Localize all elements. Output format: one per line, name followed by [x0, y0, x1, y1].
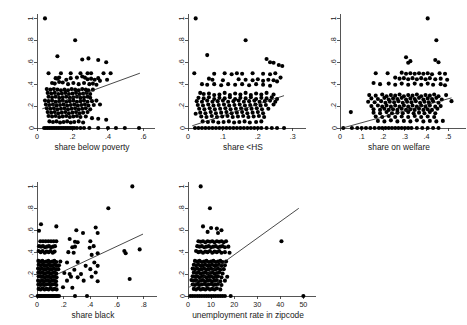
- data-point: [94, 99, 98, 103]
- data-point: [91, 82, 95, 86]
- data-point: [226, 82, 230, 86]
- data-point: [46, 110, 50, 114]
- data-point: [265, 57, 269, 61]
- data-point: [426, 82, 430, 86]
- data-point: [74, 110, 78, 114]
- data-point: [207, 77, 211, 81]
- data-point: [198, 111, 202, 115]
- x-tick-label: .1: [359, 132, 365, 141]
- data-point: [387, 82, 391, 86]
- data-point: [406, 83, 410, 87]
- x-tick-label: .1: [220, 132, 226, 141]
- data-point: [63, 110, 67, 114]
- data-point: [86, 56, 90, 60]
- data-point: [86, 77, 90, 81]
- data-point: [224, 126, 228, 130]
- data-point: [443, 72, 447, 76]
- data-point: [203, 111, 207, 115]
- x-tick-label: 40: [276, 300, 284, 309]
- data-point: [406, 115, 410, 119]
- y-tick-label: 1: [27, 16, 36, 20]
- data-point: [96, 231, 100, 235]
- data-point: [71, 114, 75, 118]
- data-point: [219, 251, 223, 255]
- data-point: [234, 107, 238, 111]
- data-point: [432, 115, 436, 119]
- data-point: [75, 76, 79, 80]
- data-point: [53, 110, 57, 114]
- data-point: [227, 103, 231, 107]
- data-point: [251, 111, 255, 115]
- data-point: [247, 83, 251, 87]
- data-point: [400, 96, 404, 100]
- data-point: [426, 16, 430, 20]
- data-point: [426, 96, 430, 100]
- data-point: [88, 246, 92, 250]
- data-point: [406, 61, 410, 65]
- data-point: [105, 78, 109, 82]
- data-point: [417, 96, 421, 100]
- data-point: [417, 111, 421, 115]
- data-point: [231, 99, 235, 103]
- data-point: [217, 270, 221, 274]
- data-point: [420, 126, 424, 130]
- data-point: [262, 115, 266, 119]
- data-point: [254, 120, 258, 124]
- data-point: [98, 102, 102, 106]
- data-point: [44, 102, 48, 106]
- data-point: [202, 92, 206, 96]
- data-point: [222, 120, 226, 124]
- data-point: [58, 103, 62, 107]
- data-point: [218, 287, 222, 291]
- data-point: [256, 77, 260, 81]
- data-point: [223, 106, 227, 110]
- data-point: [250, 107, 254, 111]
- data-point: [227, 119, 231, 123]
- data-point: [229, 294, 233, 298]
- x-tick-label: .2: [380, 132, 386, 141]
- data-point: [104, 60, 108, 64]
- data-point: [261, 111, 265, 115]
- data-point: [104, 118, 108, 122]
- data-point: [404, 72, 408, 76]
- data-point: [200, 82, 204, 86]
- data-point: [76, 275, 80, 279]
- data-point: [66, 250, 70, 254]
- data-point: [210, 126, 214, 130]
- data-point: [200, 100, 204, 104]
- data-point: [78, 115, 82, 119]
- x-tick-label: .5: [445, 132, 451, 141]
- data-point: [373, 126, 377, 130]
- data-point: [265, 91, 269, 95]
- data-point: [55, 54, 59, 58]
- data-point: [228, 126, 232, 130]
- data-point: [63, 91, 67, 95]
- data-point: [223, 294, 227, 298]
- data-point: [261, 83, 265, 87]
- data-point: [53, 91, 57, 95]
- x-tick-label: .2: [69, 132, 75, 141]
- data-point: [410, 103, 414, 107]
- data-point: [43, 99, 47, 103]
- data-point: [54, 239, 58, 243]
- y-tick-label: .6: [330, 59, 339, 65]
- data-point: [402, 119, 406, 123]
- data-point: [259, 119, 263, 123]
- data-point: [81, 111, 85, 115]
- data-point: [79, 103, 83, 107]
- data-point: [60, 111, 64, 115]
- data-point: [272, 102, 276, 106]
- x-tick-label: .6: [140, 132, 146, 141]
- data-point: [209, 110, 213, 114]
- data-point: [81, 231, 85, 235]
- data-point: [415, 126, 419, 130]
- data-point: [388, 100, 392, 104]
- data-point: [87, 126, 91, 130]
- x-tick-label: 0: [35, 300, 39, 309]
- data-point: [434, 119, 438, 123]
- data-point: [65, 279, 69, 283]
- data-point: [88, 239, 92, 243]
- data-point: [54, 95, 58, 99]
- data-point: [272, 78, 276, 82]
- data-point: [138, 247, 142, 251]
